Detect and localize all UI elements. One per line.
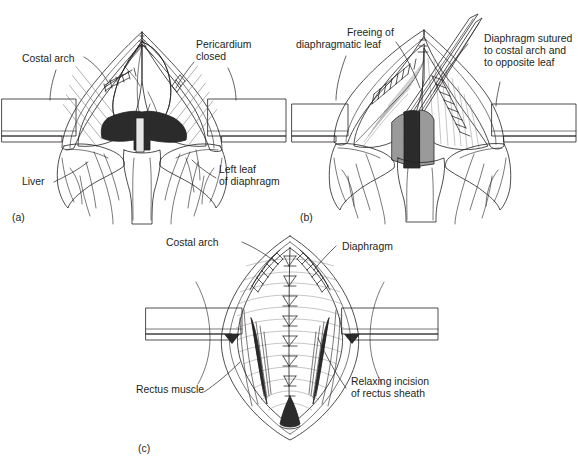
label-liver: Liver	[22, 176, 45, 187]
label-relaxing-line2: of rectus sheath	[351, 388, 425, 399]
label-sutured-line1: Diaphragm sutured	[484, 33, 573, 44]
label-costal-arch-c: Costal arch	[166, 237, 219, 248]
label-rectus-muscle: Rectus muscle	[136, 384, 204, 395]
panel-letter-a: (a)	[12, 212, 25, 223]
label-diaphragm-c: Diaphragm	[342, 241, 393, 252]
label-sutured-line3: to opposite leaf	[484, 57, 555, 68]
label-relaxing-line1: Relaxing incision	[351, 376, 429, 387]
label-left-leaf-line1: Left leaf	[219, 164, 256, 175]
label-freeing-line2: diaphragmatic leaf	[296, 39, 381, 50]
panel-letter-c: (c)	[138, 443, 150, 454]
label-pericardium-line2: closed	[196, 51, 226, 62]
label-costal-arch-a: Costal arch	[22, 53, 75, 64]
figure-canvas: Costal arch Pericardium closed Liver Lef…	[0, 0, 578, 470]
label-pericardium-line1: Pericardium	[196, 39, 251, 50]
label-left-leaf-line2: of diaphragm	[219, 176, 280, 187]
label-freeing-line1: Freeing of	[347, 27, 394, 38]
label-sutured-line2: to costal arch and	[484, 45, 566, 56]
panel-b-dark-cavity	[392, 110, 434, 168]
surgical-figure: Costal arch Pericardium closed Liver Lef…	[0, 0, 578, 470]
panel-letter-b: (b)	[300, 212, 313, 223]
